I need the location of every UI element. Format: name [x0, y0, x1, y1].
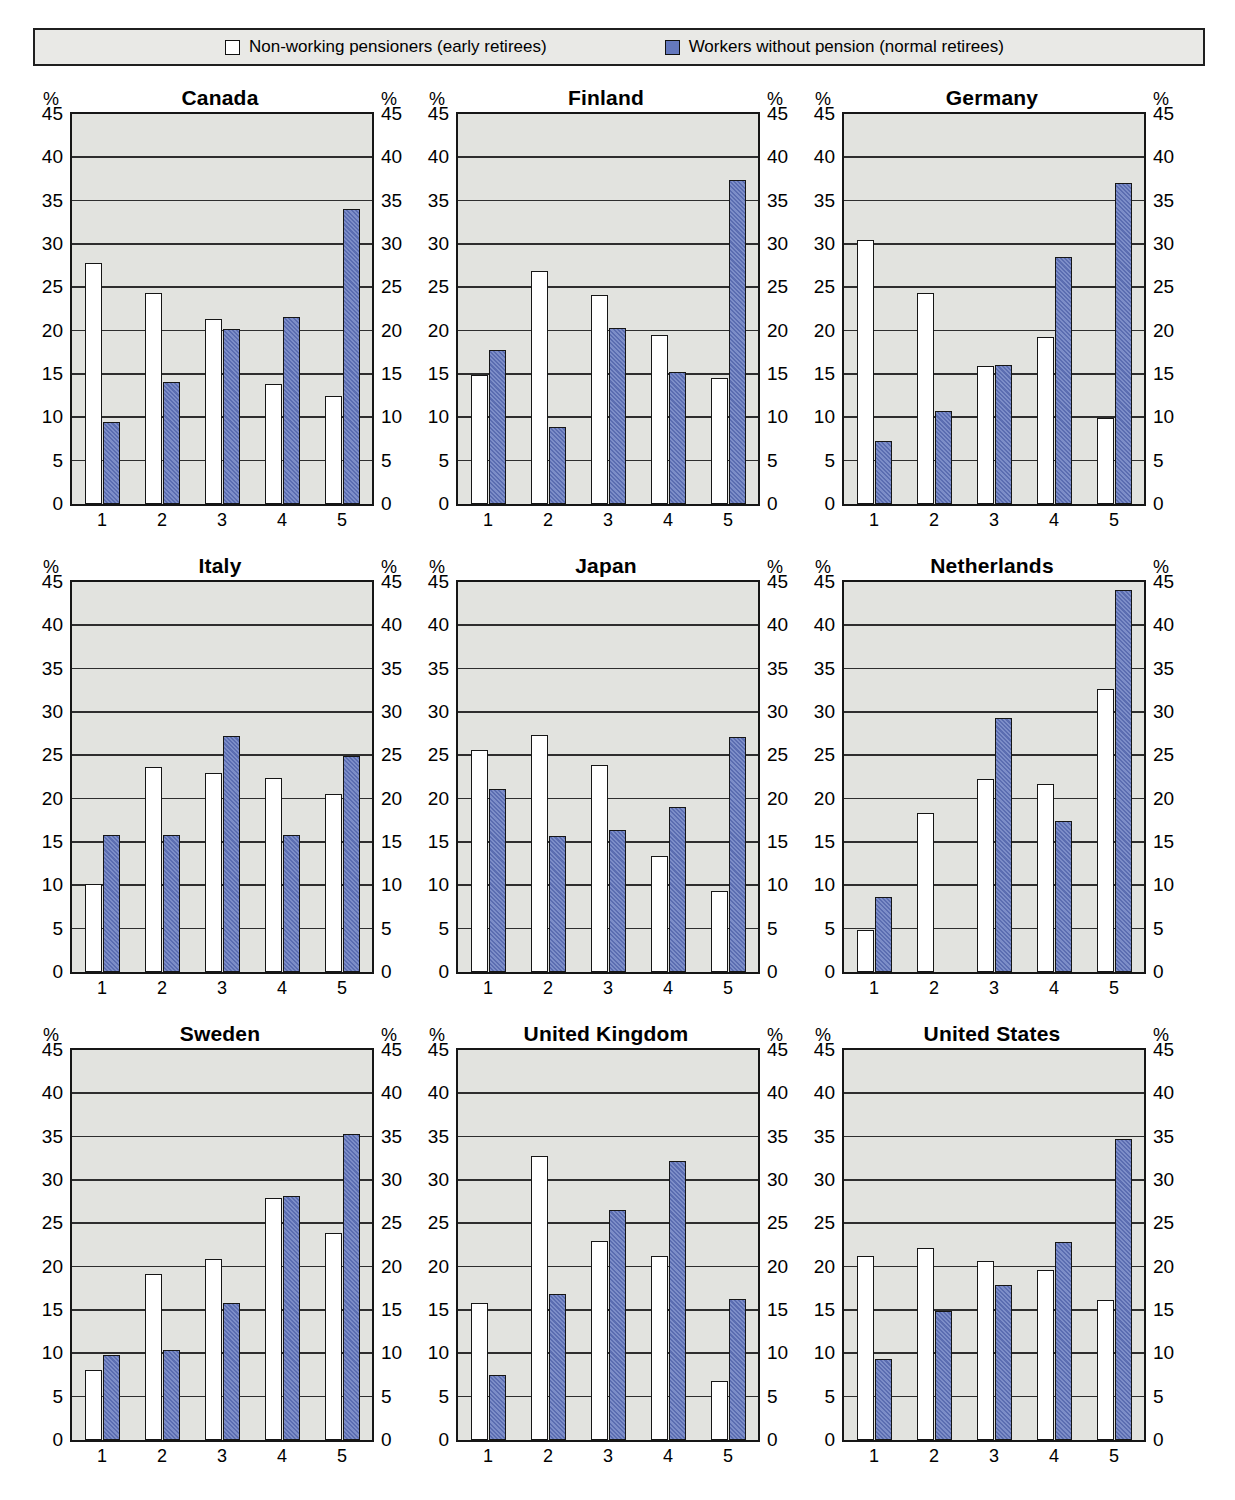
plot-area	[842, 1048, 1146, 1442]
y-tick-label-left: 10	[418, 874, 456, 896]
y-tick-label-left: 40	[32, 1082, 70, 1104]
chart-header: %Netherlands%	[804, 546, 1180, 578]
y-tick-label-left: 40	[418, 614, 456, 636]
gridline	[458, 200, 758, 202]
chart-panel: %United States%0510152025303540450510152…	[804, 1014, 1180, 1472]
gridline	[458, 156, 758, 158]
chart-title: United Kingdom	[456, 1022, 756, 1046]
y-tick-label-right: 30	[1146, 233, 1184, 255]
y-tick-label-left: 40	[418, 146, 456, 168]
gridline	[458, 1092, 758, 1094]
y-tick-label-left: 35	[32, 190, 70, 212]
bar-workers-without-pension	[489, 350, 506, 504]
y-tick-label-left: 10	[804, 874, 842, 896]
plot-area	[70, 580, 374, 974]
y-axis-left: 051015202530354045	[32, 1048, 70, 1442]
gridline	[72, 156, 372, 158]
chart-body: 051015202530354045051015202530354045	[804, 1048, 1180, 1442]
y-tick-label-left: 5	[804, 1386, 842, 1408]
y-tick-label-right: 20	[374, 1256, 412, 1278]
y-tick-label-left: 30	[32, 233, 70, 255]
x-tick-label: 3	[989, 1446, 999, 1467]
bar-nonworking-pensioners	[977, 1261, 994, 1440]
bar-workers-without-pension	[223, 329, 240, 504]
x-axis: 12345	[804, 1442, 1180, 1472]
bar-nonworking-pensioners	[977, 779, 994, 972]
x-tick-label: 1	[869, 1446, 879, 1467]
y-tick-label-right: 20	[1146, 1256, 1184, 1278]
y-tick-label-right: 25	[760, 744, 798, 766]
bar-nonworking-pensioners	[857, 930, 874, 972]
y-tick-label-left: 15	[32, 1299, 70, 1321]
y-tick-label-right: 15	[1146, 363, 1184, 385]
y-tick-label-left: 30	[804, 1169, 842, 1191]
gridline	[844, 1136, 1144, 1138]
y-tick-label-left: 40	[418, 1082, 456, 1104]
gridline	[72, 200, 372, 202]
plot-area	[842, 112, 1146, 506]
y-tick-label-left: 25	[32, 744, 70, 766]
y-axis-left: 051015202530354045	[804, 580, 842, 974]
x-tick-label: 5	[723, 978, 733, 999]
bar-nonworking-pensioners	[85, 1370, 102, 1440]
y-tick-label-right: 15	[374, 831, 412, 853]
legend: Non-working pensioners (early retirees) …	[33, 28, 1205, 66]
y-tick-label-left: 30	[418, 233, 456, 255]
bar-workers-without-pension	[1055, 821, 1072, 972]
x-tick-label: 4	[277, 510, 287, 531]
x-tick-label: 1	[97, 510, 107, 531]
gridline	[458, 668, 758, 670]
gridline	[72, 1222, 372, 1224]
y-tick-label-right: 20	[760, 320, 798, 342]
x-tick-label: 1	[483, 1446, 493, 1467]
y-tick-label-left: 5	[804, 918, 842, 940]
x-tick-label: 4	[1049, 978, 1059, 999]
chart-header: %Germany%	[804, 78, 1180, 110]
bar-workers-without-pension	[1115, 1139, 1132, 1440]
x-tick-label: 4	[277, 978, 287, 999]
y-tick-label-right: 45	[1146, 103, 1184, 125]
y-tick-label-left: 10	[32, 874, 70, 896]
chart-header: %Canada%	[32, 78, 408, 110]
gridline	[844, 1092, 1144, 1094]
bar-nonworking-pensioners	[531, 735, 548, 972]
gridline	[72, 624, 372, 626]
y-tick-label-left: 30	[804, 701, 842, 723]
plot-area	[70, 112, 374, 506]
y-tick-label-left: 25	[32, 1212, 70, 1234]
plot-area	[456, 580, 760, 974]
y-tick-label-left: 5	[32, 1386, 70, 1408]
x-tick-label: 2	[929, 978, 939, 999]
x-tick-label: 1	[869, 510, 879, 531]
y-tick-label-right: 20	[1146, 788, 1184, 810]
y-axis-right: 051015202530354045	[1146, 112, 1184, 506]
bar-nonworking-pensioners	[1037, 1270, 1054, 1440]
bar-workers-without-pension	[669, 807, 686, 972]
y-tick-label-left: 25	[804, 1212, 842, 1234]
y-tick-label-right: 45	[760, 103, 798, 125]
y-tick-label-right: 30	[760, 233, 798, 255]
y-tick-label-right: 15	[374, 363, 412, 385]
bar-nonworking-pensioners	[857, 1256, 874, 1440]
plot-area	[456, 112, 760, 506]
y-tick-label-left: 35	[418, 1126, 456, 1148]
y-tick-label-left: 15	[418, 831, 456, 853]
y-tick-label-right: 30	[374, 233, 412, 255]
y-tick-label-left: 15	[804, 831, 842, 853]
y-tick-label-right: 5	[1146, 1386, 1184, 1408]
bar-nonworking-pensioners	[145, 1274, 162, 1440]
x-axis: 12345	[32, 1442, 408, 1472]
y-axis-right: 051015202530354045	[760, 1048, 798, 1442]
plot-area	[70, 1048, 374, 1442]
gridline	[844, 1266, 1144, 1268]
gridline	[72, 1092, 372, 1094]
y-tick-label-left: 40	[32, 146, 70, 168]
x-tick-label: 5	[337, 1446, 347, 1467]
bar-nonworking-pensioners	[711, 1381, 728, 1440]
chart-panel: %Netherlands%051015202530354045051015202…	[804, 546, 1180, 1004]
y-axis-right: 051015202530354045	[1146, 580, 1184, 974]
bar-nonworking-pensioners	[711, 378, 728, 504]
bar-nonworking-pensioners	[651, 856, 668, 972]
y-axis-right: 051015202530354045	[760, 580, 798, 974]
y-tick-label-left: 30	[418, 701, 456, 723]
